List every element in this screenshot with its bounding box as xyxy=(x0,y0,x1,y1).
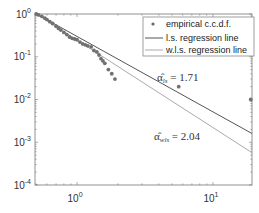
legend-marker-icon xyxy=(151,22,154,25)
legend-label-wls: w.l.s. regression line xyxy=(165,45,247,55)
data-point xyxy=(177,85,181,89)
data-point xyxy=(97,53,101,57)
data-point xyxy=(95,50,99,54)
data-point xyxy=(59,28,63,32)
y-tick-label: 10-1 xyxy=(14,49,31,62)
data-point xyxy=(249,98,253,102)
data-point xyxy=(103,61,107,65)
y-tick-label: 10-4 xyxy=(14,178,31,191)
legend: empirical c.c.d.f. l.s. regression line … xyxy=(143,17,254,56)
data-point xyxy=(113,77,117,81)
y-tick-label: 100 xyxy=(16,7,31,20)
data-point xyxy=(110,72,114,76)
annotation-alpha-ls: α̂ls = 1.71 xyxy=(157,71,198,85)
y-tick-label: 10-2 xyxy=(14,92,31,105)
annotation-alpha-wls: α̂wls = 2.04 xyxy=(154,130,201,144)
annotations: α̂ls = 1.71 α̂wls = 2.04 xyxy=(154,71,201,144)
legend-label-ls: l.s. regression line xyxy=(166,33,239,43)
legend-label-empirical: empirical c.c.d.f. xyxy=(166,19,231,29)
data-point xyxy=(89,45,93,49)
y-tick-label: 10-3 xyxy=(14,135,31,148)
x-tick-label: 101 xyxy=(203,191,218,204)
data-point xyxy=(86,44,90,48)
data-point xyxy=(106,68,110,72)
ccdf-chart: 10010-110-210-310-4100101 empirical c.c.… xyxy=(0,0,259,213)
x-tick-label: 100 xyxy=(68,191,83,204)
data-point xyxy=(51,22,55,26)
data-point xyxy=(37,13,41,17)
